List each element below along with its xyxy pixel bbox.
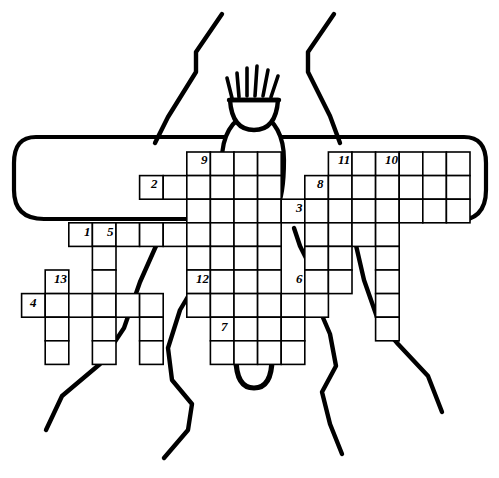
clue-number: 13 [54,272,67,285]
insect-crossword-artboard: 92111083151341267 [0,0,499,478]
clue-number: 1 [84,225,91,238]
clue-number: 8 [317,177,324,190]
clue-number: 4 [30,296,37,309]
clue-number: 3 [296,201,303,214]
puzzle-stage: 92111083151341267 [0,0,499,478]
clue-number-layer: 92111083151341267 [0,0,499,478]
clue-number: 2 [151,177,158,190]
clue-number: 9 [201,153,208,166]
clue-number: 7 [221,320,228,333]
clue-number: 11 [338,153,350,166]
clue-number: 5 [107,225,114,238]
clue-number: 10 [385,153,398,166]
clue-number: 6 [296,272,303,285]
clue-number: 12 [196,272,209,285]
